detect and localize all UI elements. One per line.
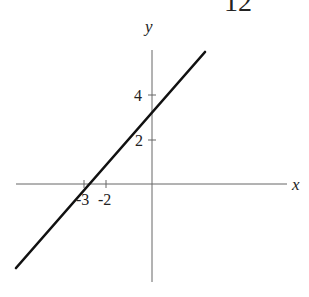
plotted-line [16,52,205,268]
x-axis-label: x [291,175,300,194]
coordinate-plot: y x 4 2 -3 -2 [0,0,309,297]
y-axis-label: y [143,17,153,36]
y-tick-label-4: 4 [134,87,142,104]
y-tick-label-2: 2 [135,132,143,149]
x-tick-label-minus2: -2 [98,191,111,208]
x-tick-label-minus3: -3 [76,191,89,208]
